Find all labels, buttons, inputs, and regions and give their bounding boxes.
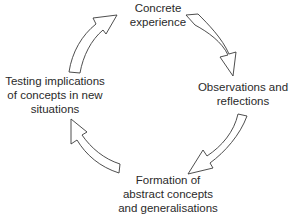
stage-label-line: Testing implications [0,74,110,88]
stage-label-line: Concrete [118,1,198,15]
stage-label-line: Formation of [103,173,233,187]
stage-abstract-concepts: Formation of abstract concepts and gener… [103,173,233,215]
stage-concrete-experience: Concrete experience [118,1,198,29]
stage-label-line: experience [118,15,198,29]
arrow-bottom-to-left-icon [71,119,120,173]
stage-label-line: reflections [188,94,297,108]
stage-label-line: of concepts in new [0,88,110,102]
arrow-left-to-top-icon [69,15,117,73]
stage-testing-implications: Testing implications of concepts in new … [0,74,110,116]
stage-label-line: Observations and [188,80,297,94]
stage-label-line: situations [0,102,110,116]
stage-observations-reflections: Observations and reflections [188,80,297,108]
stage-label-line: and generalisations [103,201,233,215]
stage-label-line: abstract concepts [103,187,233,201]
arrow-right-to-bottom-icon [188,114,247,174]
